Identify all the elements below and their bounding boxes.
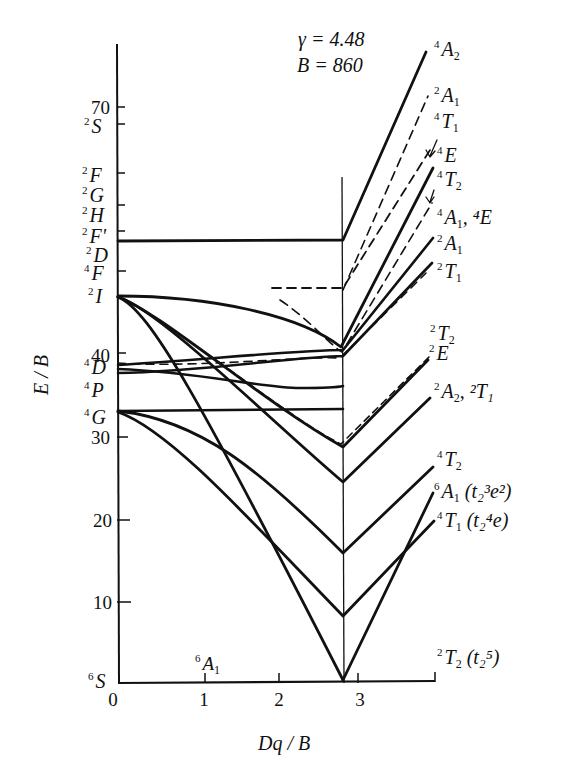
state-4A1-4E: 4A1, ⁴E: [437, 206, 492, 231]
state-4T1-top: 4T1: [434, 110, 459, 135]
right-state-labels: 4A2 2A1 4T1 4E 4T2 4A1, ⁴E 2A1 2T1 2T2 2…: [429, 38, 512, 671]
curve-4A2: [118, 52, 426, 241]
x-axis-title: Dq / B: [257, 732, 310, 755]
y-axis-title: E / B: [30, 355, 52, 396]
crossover-line: [342, 177, 344, 683]
state-4E: 4E: [437, 144, 457, 166]
state-4A2: 4A2: [434, 38, 460, 63]
term-2F: 2F: [82, 164, 103, 186]
term-2H: 2H: [82, 204, 106, 226]
x-tick-1: 1: [199, 689, 209, 710]
ground-state-label-6A1: 6A1: [195, 652, 220, 677]
curve-2A2-2T1: [118, 297, 430, 482]
x-tick-labels: 0 1 2 3: [108, 689, 365, 710]
curve-4G-flat: [118, 409, 343, 411]
state-2A1-top: 2A1: [434, 84, 460, 109]
term-4F: 4F: [84, 262, 105, 284]
gamma-annotation: γ = 4.48: [298, 28, 364, 51]
curve-4E: [118, 168, 433, 347]
x-tick-2: 2: [274, 689, 284, 710]
term-4G: 4G: [84, 406, 107, 428]
curve-4T2-upper: [280, 203, 432, 352]
term-2G: 2G: [82, 184, 105, 206]
state-4T2-low: 4T2: [437, 448, 462, 473]
arrow-4T2: [426, 190, 434, 203]
term-4D: 4D: [84, 356, 107, 378]
state-4T2-top: 4T2: [437, 168, 462, 193]
tanabe-sugano-chart: γ = 4.48 B = 860 70 40 30 20 10 0 1 2 3: [0, 0, 566, 780]
y-tick-10: 10: [93, 592, 112, 613]
curve-4G-to-4T2: [118, 411, 433, 553]
x-tick-0: 0: [108, 689, 118, 710]
state-2E: 2E: [429, 342, 449, 364]
state-2T1: 2T1: [437, 260, 462, 285]
y-tick-30: 30: [91, 427, 110, 448]
x-tick-3: 3: [355, 689, 365, 710]
curve-2T2-t25: [118, 297, 343, 680]
curve-4T1-t24e: [118, 412, 434, 616]
b-annotation: B = 860: [297, 54, 363, 76]
term-2S: 2S: [84, 115, 102, 137]
state-2T2-t25: 2T2 (t₂⁵): [437, 646, 500, 671]
term-2I: 2I: [88, 285, 104, 307]
energy-curves: [118, 52, 437, 680]
x-axis: [118, 681, 435, 683]
curve-6A1-t23e2: [343, 493, 433, 680]
state-6A1-t23e2: 6A1 (t₂³e²): [434, 480, 512, 505]
state-2A2-2T1: 2A2, ²T₁: [434, 380, 494, 405]
y-tick-20: 20: [93, 510, 112, 531]
state-4T1-t24e: 4T1 (t₂⁴e): [437, 509, 509, 534]
term-4P: 4P: [84, 379, 104, 401]
term-6S: 6S: [88, 670, 106, 692]
state-2A1: 2A1: [437, 232, 463, 257]
